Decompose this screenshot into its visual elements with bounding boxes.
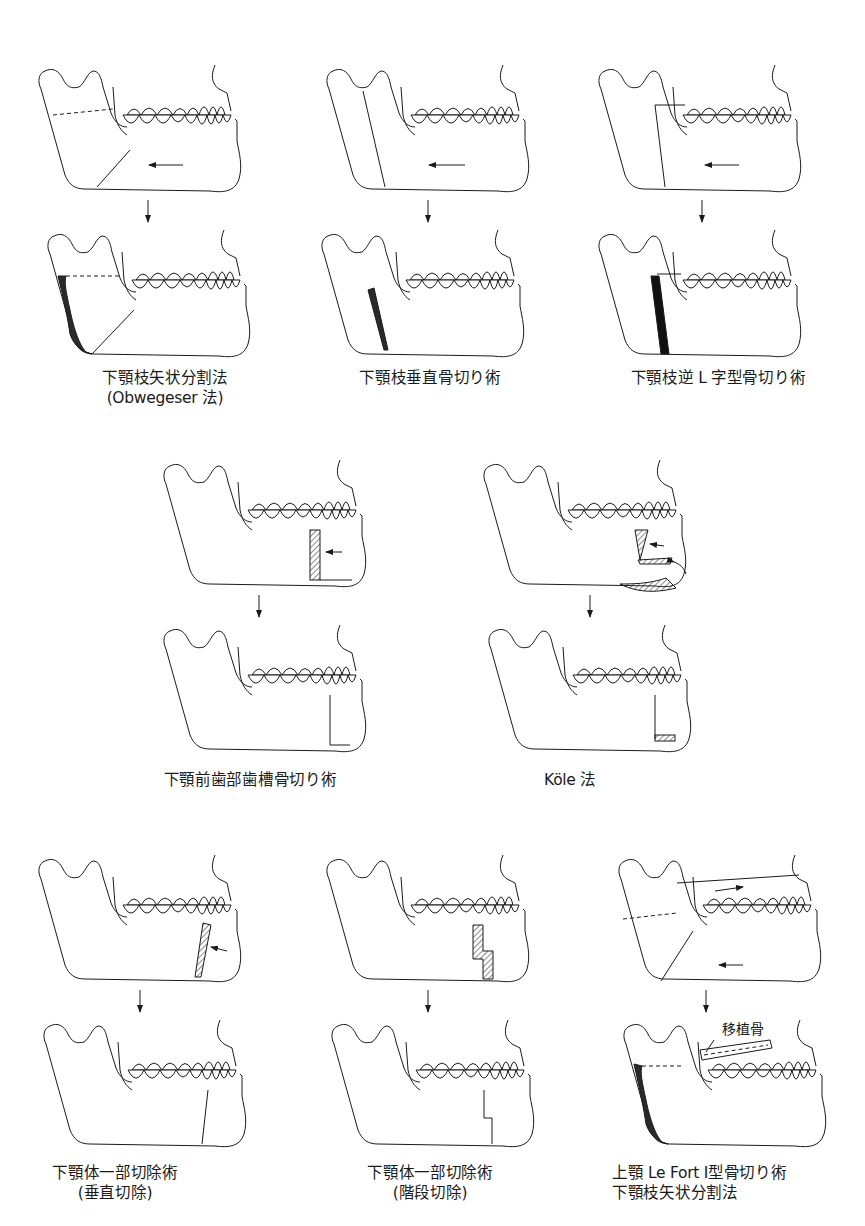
jaw-diagram (480, 455, 710, 755)
procedure-sagittal-split (30, 60, 260, 360)
caption-sagittal-split: 下顎枝矢状分割法(Obwegeser 法) (95, 368, 235, 408)
jaw-diagram (610, 850, 840, 1150)
caption-inverted-L: 下顎枝逆 L 字型骨切り術 (618, 368, 818, 388)
caption-body-vertical: 下顎体一部切除術(垂直切除) (40, 1163, 190, 1203)
procedure-inverted-L (590, 60, 820, 360)
caption-lefort-sagittal: 上顎 Le Fort Ⅰ型骨切り術下顎枝矢状分割法 (612, 1163, 842, 1203)
procedure-vertical-ramus (318, 60, 548, 360)
jaw-diagram (318, 60, 548, 360)
procedure-body-step (318, 850, 548, 1150)
procedure-lefort-sagittal: 移植骨 (610, 850, 840, 1150)
jaw-diagram (590, 60, 820, 360)
caption-body-step: 下顎体一部切除術(階段切除) (355, 1163, 505, 1203)
caption-vertical-ramus: 下顎枝垂直骨切り術 (345, 368, 515, 388)
graft-bone-label: 移植骨 (722, 1018, 764, 1038)
caption-kole: Köle 法 (520, 770, 620, 790)
procedure-body-vertical (30, 850, 260, 1150)
procedure-anterior-alveolar (155, 455, 385, 755)
jaw-diagram (155, 455, 385, 755)
jaw-diagram (30, 850, 260, 1150)
procedure-kole (480, 455, 710, 755)
jaw-diagram (30, 60, 260, 360)
jaw-diagram (318, 850, 548, 1150)
caption-anterior-alveolar: 下顎前歯部歯槽骨切り術 (150, 770, 350, 790)
